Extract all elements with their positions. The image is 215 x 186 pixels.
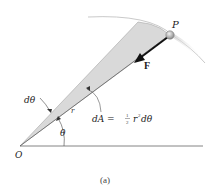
- area-formula-tail: dθ: [141, 114, 153, 124]
- motion-glow: [172, 35, 200, 58]
- area-formula-lhs: dA =: [92, 114, 118, 124]
- dtheta-arrowhead: [47, 109, 52, 113]
- orbital-area-diagram: P F dθ r θ O dA = 1 2 r 2 dθ (a): [0, 0, 215, 186]
- theta-label: θ: [60, 128, 66, 138]
- area-formula-den: 2: [126, 120, 129, 125]
- origin-label: O: [15, 150, 23, 160]
- point-label: P: [171, 19, 179, 30]
- dtheta-label: dθ: [24, 95, 36, 105]
- particle: [166, 31, 174, 39]
- force-label: F: [144, 60, 150, 71]
- area-wedge: [20, 22, 170, 146]
- figure-caption: (a): [100, 175, 110, 185]
- radius-line: [20, 36, 168, 146]
- area-formula: dA = 1 2 r 2 dθ: [92, 113, 153, 125]
- area-formula-num: 1: [126, 113, 129, 118]
- radius-label: r: [71, 107, 75, 115]
